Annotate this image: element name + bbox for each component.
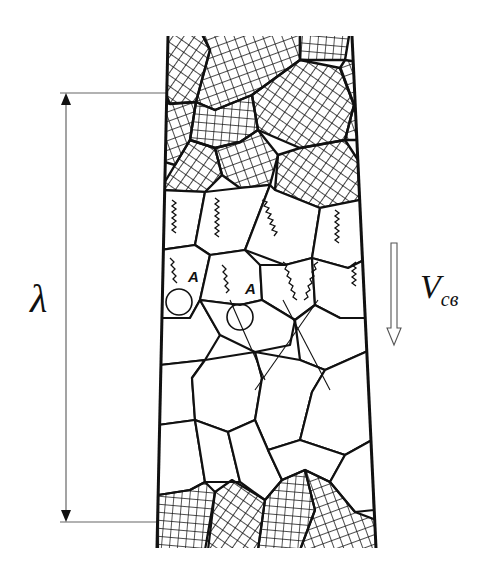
point-a-label-1: A	[188, 268, 199, 285]
velocity-label: Vсв	[420, 268, 458, 311]
dimension-arrow	[60, 93, 166, 522]
point-a-label-2: A	[245, 280, 256, 297]
wavelength-label: λ	[30, 275, 47, 322]
top-hatched-region	[158, 30, 360, 208]
velocity-arrow-icon	[387, 243, 401, 345]
specimen-body	[158, 30, 376, 550]
velocity-subscript: св	[441, 288, 459, 310]
grain-structure-diagram	[0, 0, 480, 576]
velocity-symbol: V	[420, 268, 441, 305]
